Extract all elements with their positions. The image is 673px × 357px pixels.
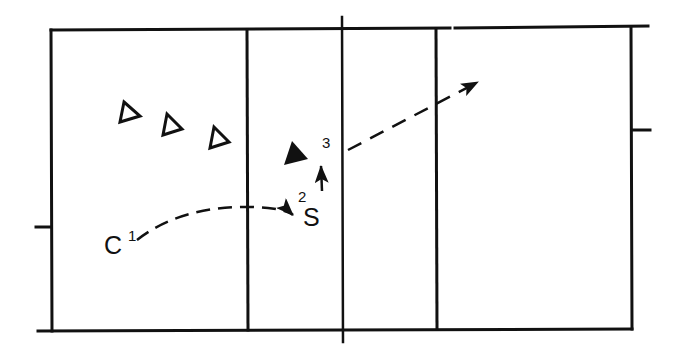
right-attack-line xyxy=(436,29,437,329)
move-arrow-2 xyxy=(321,166,322,191)
top-boundary-right xyxy=(455,26,648,28)
attack-path-3 xyxy=(348,82,478,150)
label-s: S xyxy=(303,205,320,230)
left-end-line xyxy=(51,30,52,331)
defender-1-icon xyxy=(120,102,140,122)
attacker-icon xyxy=(284,141,308,165)
court-diagram xyxy=(0,0,673,357)
top-boundary-left xyxy=(51,28,450,30)
defender-2-icon xyxy=(163,114,182,135)
pass-path-1 xyxy=(137,207,293,240)
right-end-line xyxy=(631,27,632,329)
label-s-number: 2 xyxy=(298,189,306,204)
label-c-number: 1 xyxy=(128,228,136,243)
left-attack-line xyxy=(247,30,248,330)
label-c: C xyxy=(104,233,122,258)
defender-3-icon xyxy=(210,127,229,148)
label-third: 3 xyxy=(322,135,330,150)
bottom-boundary xyxy=(38,329,632,331)
net-line xyxy=(342,17,343,342)
